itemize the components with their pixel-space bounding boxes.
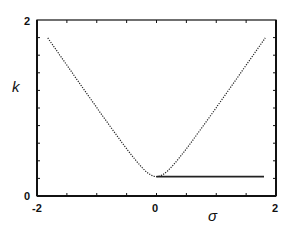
- y-tick-label-bottom: 0: [24, 190, 30, 202]
- plot-border: [37, 20, 276, 196]
- data-series: [48, 38, 265, 177]
- y-tick-label-top: 2: [24, 15, 30, 27]
- chart: 2 0 -2 0 2 k σ: [0, 0, 293, 234]
- dotted-curve: [48, 38, 265, 177]
- plot-frame: [37, 20, 276, 196]
- x-tick-label-right: 2: [272, 202, 278, 214]
- axis-ticks: [37, 20, 276, 196]
- x-axis-label: σ: [208, 207, 218, 224]
- x-tick-label-left: -2: [32, 202, 42, 214]
- x-tick-label-mid: 0: [152, 202, 158, 214]
- y-axis-label: k: [12, 78, 21, 95]
